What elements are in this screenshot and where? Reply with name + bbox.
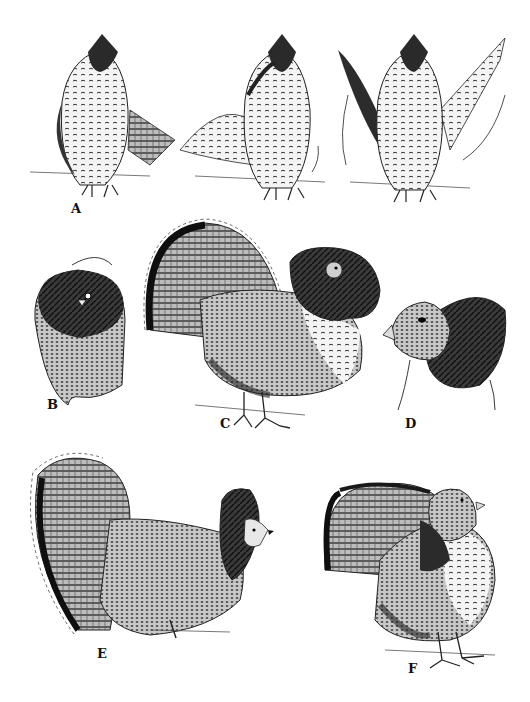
panel-label-c: C xyxy=(220,417,230,430)
illustration-plate: A B C D E F xyxy=(0,0,530,702)
panel-label-f: F xyxy=(408,662,417,675)
panel-f xyxy=(325,483,495,668)
panel-label-a: A xyxy=(71,202,81,215)
panel-label-d: D xyxy=(405,417,416,430)
panel-c xyxy=(144,219,380,428)
panel-d xyxy=(383,298,506,411)
panel-b xyxy=(35,258,125,406)
grouse-engravings xyxy=(0,0,530,702)
double-arrow-icon xyxy=(72,258,112,266)
grouse-standing-2 xyxy=(180,34,325,200)
grouse-standing-3 xyxy=(338,34,505,202)
panel-e xyxy=(30,453,274,638)
panel-a xyxy=(30,34,505,202)
panel-label-b: B xyxy=(47,398,58,411)
panel-label-e: E xyxy=(97,647,107,660)
grouse-standing-1 xyxy=(30,34,175,197)
